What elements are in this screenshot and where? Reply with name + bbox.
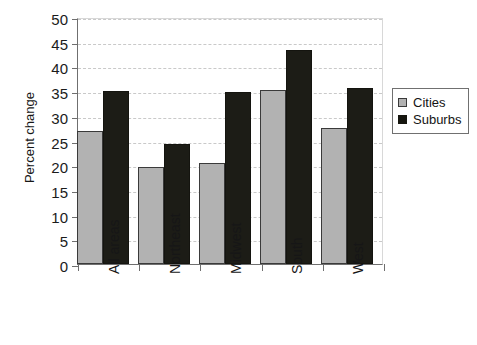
x-axis-tick [139,264,140,271]
bar-suburbs-south [286,50,312,264]
bar-cities-midwest [199,163,225,264]
x-axis-label-all-areas: All areas [106,220,122,274]
x-axis-tick [200,264,201,271]
legend-swatch-icon [398,98,407,107]
y-axis-tick-label: 5 [60,233,68,250]
chart-legend: CitiesSuburbs [392,88,469,134]
y-axis-tick-label: 40 [51,60,68,77]
bar-cities-all-areas [77,131,103,264]
bar-cities-west [321,128,347,264]
y-axis-tick-label: 0 [60,258,68,275]
x-axis-tick [262,264,263,271]
legend-label: Cities [413,96,446,109]
y-axis-tick-label: 15 [51,183,68,200]
bar-chart: Percent change 05101520253035404550 All … [0,0,477,345]
legend-item-suburbs: Suburbs [398,111,461,128]
y-axis-tick-label: 35 [51,85,68,102]
x-axis-tick [323,264,324,271]
bar-cities-south [260,90,286,264]
y-axis-tick-label: 20 [51,159,68,176]
y-axis-tick-label: 30 [51,109,68,126]
x-axis-label-west: West [350,242,366,274]
legend-item-cities: Cities [398,94,461,111]
legend-label: Suburbs [413,113,461,126]
legend-swatch-icon [398,115,407,124]
x-axis-label-midwest: Midwest [228,223,244,274]
y-axis-tick-label: 25 [51,134,68,151]
y-axis-tick-label: 50 [51,11,68,28]
y-axis-tick-label: 10 [51,208,68,225]
bar-cities-northeast [138,167,164,264]
y-axis-tick-label: 45 [51,35,68,52]
x-axis-label-northeast: Northeast [167,213,183,274]
x-axis-label-south: South [289,237,305,274]
x-axis-tick [384,264,385,271]
x-axis-tick [78,264,79,271]
y-axis-title: Percent change [22,38,37,238]
bar-suburbs-west [347,88,373,264]
